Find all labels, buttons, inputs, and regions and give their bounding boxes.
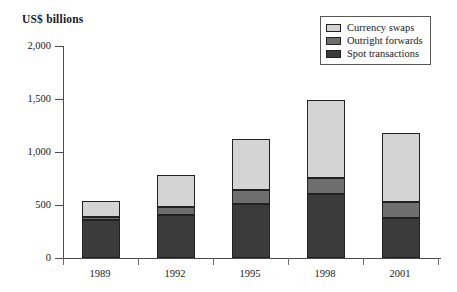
y-tick-1500	[55, 99, 63, 100]
bar-segment-1998-currency-swaps[interactable]	[307, 100, 345, 178]
y-tick-label-1000-wrap: 1,000	[0, 147, 51, 157]
legend-label-spot-transactions: Spot transactions	[347, 48, 419, 59]
y-tick-1000	[55, 152, 63, 153]
x-axis-label-1995: 1995	[210, 268, 290, 279]
y-tick-label-1500: 1,500	[3, 94, 51, 104]
chart-legend: Currency swaps Outright forwards Spot tr…	[320, 16, 431, 65]
x-tick-3	[288, 258, 289, 265]
x-tick-5	[438, 258, 439, 265]
chart-title: US$ billions	[22, 13, 84, 25]
x-axis-line	[55, 258, 441, 259]
legend-swatch-currency-swaps	[326, 24, 341, 32]
legend-item-outright-forwards: Outright forwards	[326, 34, 423, 47]
x-tick-0	[63, 258, 64, 265]
y-tick-label-2000-wrap: 2,000	[0, 41, 51, 51]
bar-segment-1989-outright-forwards[interactable]	[82, 217, 120, 221]
y-axis-line	[63, 46, 64, 259]
bar-segment-2001-currency-swaps[interactable]	[382, 133, 420, 202]
bar-group-2001[interactable]	[382, 133, 420, 258]
bar-segment-2001-spot-transactions[interactable]	[382, 218, 420, 258]
x-axis-label-1998: 1998	[285, 268, 365, 279]
bar-segment-2001-outright-forwards[interactable]	[382, 202, 420, 218]
bar-segment-1989-currency-swaps[interactable]	[82, 201, 120, 217]
bar-segment-1998-spot-transactions[interactable]	[307, 194, 345, 258]
y-tick-label-500-wrap: 500	[0, 200, 51, 210]
legend-swatch-spot-transactions	[326, 50, 341, 58]
stacked-bar-chart: US$ billions 2,000 1,500 1,000 500 0 198…	[0, 0, 457, 292]
y-tick-label-1000: 1,000	[3, 147, 51, 157]
x-axis-label-1992: 1992	[135, 268, 215, 279]
bar-segment-1998-outright-forwards[interactable]	[307, 178, 345, 194]
legend-swatch-outright-forwards	[326, 37, 341, 45]
bar-segment-1992-outright-forwards[interactable]	[157, 207, 195, 215]
bar-segment-1995-outright-forwards[interactable]	[232, 190, 270, 204]
y-tick-label-2000: 2,000	[3, 41, 51, 51]
bar-segment-1992-spot-transactions[interactable]	[157, 215, 195, 258]
bar-group-1989[interactable]	[82, 201, 120, 258]
x-tick-4	[363, 258, 364, 265]
legend-item-currency-swaps: Currency swaps	[326, 21, 423, 34]
x-axis-label-1989: 1989	[60, 268, 140, 279]
bar-group-1995[interactable]	[232, 139, 270, 258]
y-tick-label-0-wrap: 0	[0, 253, 51, 263]
legend-item-spot-transactions: Spot transactions	[326, 47, 423, 60]
y-tick-label-0: 0	[3, 253, 51, 263]
y-tick-label-1500-wrap: 1,500	[0, 94, 51, 104]
y-tick-500	[55, 205, 63, 206]
bar-segment-1995-spot-transactions[interactable]	[232, 204, 270, 258]
legend-label-currency-swaps: Currency swaps	[347, 22, 414, 33]
y-tick-label-500: 500	[3, 200, 51, 210]
x-axis-label-2001: 2001	[360, 268, 440, 279]
bar-segment-1992-currency-swaps[interactable]	[157, 175, 195, 206]
legend-label-outright-forwards: Outright forwards	[347, 35, 423, 46]
bar-segment-1989-spot-transactions[interactable]	[82, 220, 120, 258]
bar-group-1992[interactable]	[157, 175, 195, 258]
bar-group-1998[interactable]	[307, 100, 345, 258]
x-tick-2	[213, 258, 214, 265]
y-tick-2000	[55, 46, 63, 47]
bar-segment-1995-currency-swaps[interactable]	[232, 139, 270, 190]
y-tick-0	[55, 258, 63, 259]
x-tick-1	[138, 258, 139, 265]
